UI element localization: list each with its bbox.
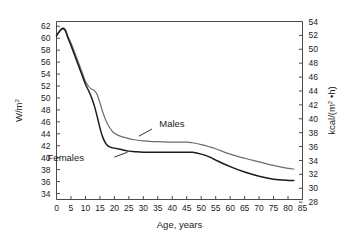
y-tick-label-right: 42 (309, 100, 319, 110)
y-tick-label-right: 40 (309, 114, 319, 124)
y-tick-label-right: 50 (309, 44, 319, 54)
y-tick-labels-left: 343638404244464850525456586062 (41, 21, 51, 198)
x-tick-label: 25 (124, 203, 134, 213)
y-tick-label-left: 52 (41, 81, 51, 91)
y-tick-label-left: 54 (41, 69, 51, 79)
y-tick-label-right: 36 (309, 142, 319, 152)
y-tick-label-right: 44 (309, 86, 319, 96)
y-tick-label-left: 44 (41, 129, 51, 139)
y-tick-label-left: 46 (41, 117, 51, 127)
x-tick-label: 75 (269, 203, 279, 213)
y-tick-label-left: 56 (41, 57, 51, 67)
x-tick-label: 70 (254, 203, 264, 213)
y-tick-label-right: 38 (309, 128, 319, 138)
y-tick-label-left: 38 (41, 165, 51, 175)
y-tick-label-left: 62 (41, 21, 51, 31)
x-tick-label: 65 (240, 203, 250, 213)
x-axis-title: Age, years (157, 219, 203, 230)
y-tick-label-left: 42 (41, 141, 51, 151)
y-tick-label-right: 32 (309, 169, 319, 179)
chart-figure: 0510152025303540455055606570758085 34363… (0, 0, 350, 243)
x-tick-label: 60 (225, 203, 235, 213)
chart-canvas: 0510152025303540455055606570758085 34363… (0, 0, 350, 243)
x-tick-label: 20 (110, 203, 120, 213)
y-tick-label-left: 34 (41, 189, 51, 199)
x-tick-label: 40 (168, 203, 178, 213)
series-label-males: Males (159, 118, 185, 129)
x-tick-label: 35 (153, 203, 163, 213)
x-tick-label: 45 (182, 203, 192, 213)
x-tick-label: 55 (211, 203, 221, 213)
x-tick-label: 80 (283, 203, 293, 213)
x-tick-label: 5 (69, 203, 74, 213)
x-tick-label: 0 (54, 203, 59, 213)
y-tick-label-right: 48 (309, 58, 319, 68)
y-tick-label-right: 54 (309, 17, 319, 27)
y-tick-label-right: 28 (309, 197, 319, 207)
y-tick-label-right: 34 (309, 156, 319, 166)
y-tick-label-right: 52 (309, 30, 319, 40)
series-label-females: Females (48, 152, 85, 163)
x-tick-label: 15 (95, 203, 105, 213)
x-tick-label: 85 (298, 203, 308, 213)
y-tick-label-left: 48 (41, 105, 51, 115)
x-tick-label: 10 (81, 203, 91, 213)
y-tick-label-left: 58 (41, 45, 51, 55)
x-tick-label: 50 (196, 203, 206, 213)
y-tick-label-left: 60 (41, 33, 51, 43)
y-tick-label-right: 46 (309, 72, 319, 82)
y-tick-label-right: 30 (309, 183, 319, 193)
y-tick-label-left: 36 (41, 177, 51, 187)
y-axis-title-right: kcal/(m2 •h) (326, 86, 337, 135)
y-tick-label-left: 50 (41, 93, 51, 103)
x-tick-label: 30 (139, 203, 149, 213)
